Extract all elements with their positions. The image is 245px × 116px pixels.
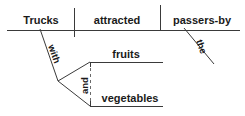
prep-object-2-label: vegetables [102,92,159,104]
verb-label: attracted [94,14,140,26]
article-label: the [194,38,209,55]
sentence-diagram: Trucks attracted passers-by with the and… [0,0,245,116]
conjunction-label: and [79,77,90,94]
object-label: passers-by [173,14,232,26]
diagram-canvas: Trucks attracted passers-by with the and… [0,0,245,116]
prep-object-1-label: fruits [112,48,140,60]
subject-label: Trucks [23,14,58,26]
